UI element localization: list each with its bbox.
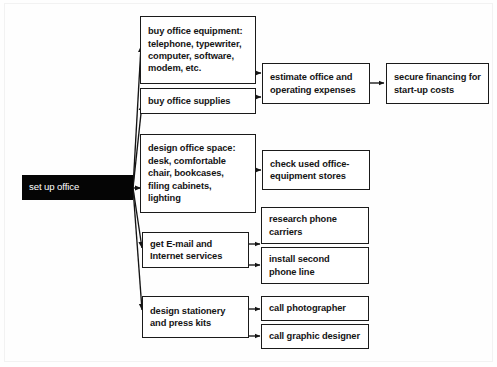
node-label: check used office- equipment stores	[270, 158, 349, 183]
node-call-graphic-designer[interactable]: call graphic designer	[261, 324, 369, 349]
node-label: call graphic designer	[269, 330, 360, 342]
node-buy-office-supplies[interactable]: buy office supplies	[140, 88, 256, 114]
node-label: call photographer	[269, 302, 346, 314]
flowchart-canvas: set up office buy office equipment: tele…	[0, 0, 497, 367]
node-label: install second phone line	[269, 253, 330, 278]
node-label: set up office	[29, 181, 79, 193]
node-secure-financing-startup-costs[interactable]: secure financing for start-up costs	[386, 63, 489, 104]
node-buy-office-equipment[interactable]: buy office equipment: telephone, typewri…	[140, 16, 256, 84]
node-label: buy office supplies	[148, 95, 230, 107]
node-design-stationery-press-kits[interactable]: design stationery and press kits	[142, 296, 249, 338]
node-design-office-space[interactable]: design office space: desk, comfortable c…	[140, 134, 256, 213]
node-label: design office space: desk, comfortable c…	[148, 142, 235, 204]
node-set-up-office[interactable]: set up office	[22, 175, 133, 200]
node-label: secure financing for start-up costs	[394, 71, 481, 96]
node-label: design stationery and press kits	[150, 305, 225, 330]
node-get-email-internet-services[interactable]: get E-mail and Internet services	[142, 232, 249, 268]
node-check-used-office-equipment-stores[interactable]: check used office- equipment stores	[262, 150, 370, 190]
node-research-phone-carriers[interactable]: research phone carriers	[261, 207, 369, 244]
node-label: buy office equipment: telephone, typewri…	[148, 25, 243, 75]
node-label: get E-mail and Internet services	[150, 238, 222, 263]
node-label: estimate office and operating expenses	[270, 71, 356, 96]
node-call-photographer[interactable]: call photographer	[261, 296, 369, 321]
node-label: research phone carriers	[269, 213, 337, 238]
node-install-second-phone-line[interactable]: install second phone line	[261, 247, 369, 284]
node-estimate-office-operating-expenses[interactable]: estimate office and operating expenses	[262, 63, 370, 104]
